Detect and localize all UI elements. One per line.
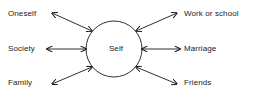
arrow-self-friends [136,67,177,84]
node-label-oneself: Oneself [8,9,60,19]
node-label-work-or-school: Work or school [184,9,250,19]
node-label-society: Society [8,44,60,54]
node-label-self: Self [96,44,136,54]
node-label-marriage: Marriage [184,44,250,54]
node-label-friends: Friends [184,78,250,88]
relationship-diagram: Oneself Society Family Work or school Ma… [0,0,253,97]
arrow-self-work [136,13,177,31]
node-label-family: Family [8,78,60,88]
